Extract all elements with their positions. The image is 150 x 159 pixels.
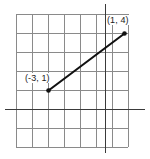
point-label-1-4: (1, 4) [106,15,130,25]
line-segment [49,34,125,91]
point-marker-end [122,31,127,36]
coordinate-plane-figure: (1, 4) (-3, 1) [0,0,150,159]
point-marker-start [46,88,51,93]
point-label-neg3-1: (-3, 1) [24,73,51,83]
